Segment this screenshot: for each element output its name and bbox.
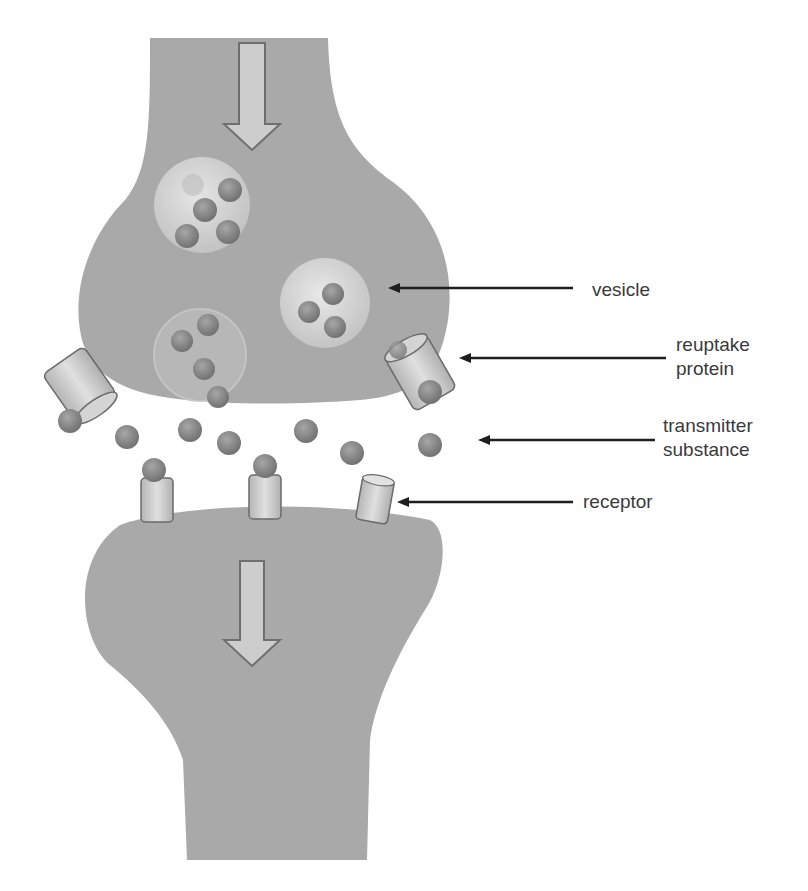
- postsynaptic-neuron: [85, 507, 443, 860]
- label-reuptake-protein: reuptake protein: [676, 333, 750, 381]
- transmitter-molecules: [115, 418, 442, 465]
- receptor-2: [249, 454, 281, 519]
- receptor-1: [141, 458, 173, 522]
- label-receptor: receptor: [583, 490, 653, 514]
- transmitter-molecule: [418, 380, 442, 404]
- vesicle-1: [154, 157, 250, 253]
- label-transmitter-substance: transmitter substance: [663, 414, 753, 462]
- transmitter-molecule: [389, 341, 407, 359]
- label-vesicle: vesicle: [592, 278, 650, 302]
- transmitter-molecule: [58, 409, 82, 433]
- vesicle-2: [280, 258, 370, 348]
